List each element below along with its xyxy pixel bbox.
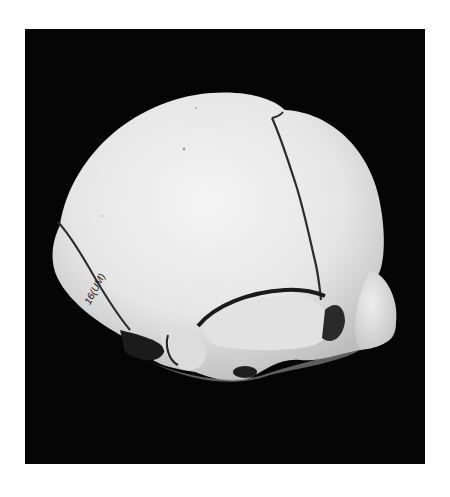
foramen-shadow bbox=[233, 366, 257, 378]
skull-illustration bbox=[25, 29, 425, 464]
photograph: 16(UM) bbox=[25, 29, 425, 464]
